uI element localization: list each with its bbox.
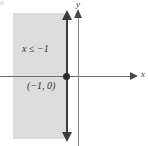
y-axis-label: y — [76, 0, 80, 9]
y-axis-line — [78, 17, 79, 146]
figure-number-label: 8. — [0, 0, 5, 7]
inequality-label: x ≤ −1 — [22, 43, 49, 55]
point-coordinate-label: (−1, 0) — [27, 80, 55, 92]
point-marker-icon — [63, 73, 70, 80]
inequality-graph-figure: 8. x y x ≤ −1 (−1, 0) — [0, 0, 148, 146]
y-axis-arrow-icon — [74, 9, 82, 18]
x-axis-label: x — [141, 69, 145, 79]
x-axis-arrow-icon — [130, 72, 138, 80]
boundary-arrow-down-icon — [62, 132, 72, 142]
boundary-arrow-up-icon — [62, 10, 72, 20]
